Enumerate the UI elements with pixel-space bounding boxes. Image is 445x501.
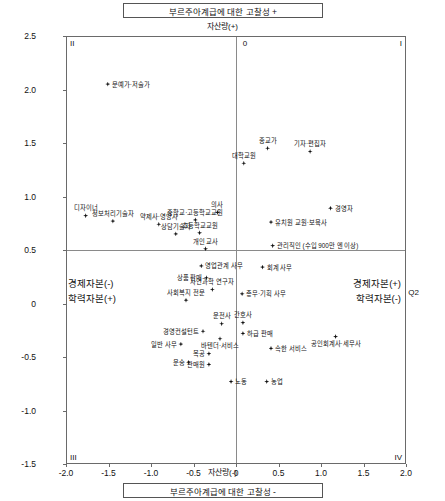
y-axis-tick-mark [63,197,66,198]
bottom-title-text: 부르주아계급에 대한 고찰성 - [170,485,276,497]
data-point-marker-icon [265,146,270,151]
y-axis-tick-label: 0 [0,299,36,309]
origin-marker-label: 0 [243,39,247,48]
y-axis-tick-label: 0.5 [0,245,36,255]
data-point-marker-icon [83,213,88,218]
y-axis-tick-label: -1.0 [0,406,36,416]
data-point-marker-icon [105,82,110,87]
y-axis-tick-mark [63,250,66,251]
top-axis-label: 자산량(+) [0,20,445,31]
plot-area: II I III IV 0 문예가·저술가디자이너정보처리기술자약제사·영양사상… [66,36,406,464]
data-point-marker-icon [229,379,234,384]
chart-root: 부르주아계급에 대한 고찰성 + 자산량(+) II I III IV 0 문예… [0,0,445,501]
quadrant-label-4: IV [394,453,402,462]
data-point-marker-icon [269,220,274,225]
data-point-marker-icon [178,342,183,347]
data-point-label: 초등학교교원 [182,223,218,229]
quadrant-label-1: I [400,39,402,48]
data-point-label: 목공 [193,351,205,357]
data-point-marker-icon [199,263,204,268]
data-point-label: 유치원 교원·보육사 [275,220,327,226]
data-point-marker-icon [333,334,338,339]
data-point-label: 총무·기획 사무 [246,291,286,297]
horizontal-axis-line [67,250,405,251]
data-point-marker-icon [110,219,115,224]
data-point-label: 운전사 [213,313,231,319]
data-point-label: 의사 [211,202,223,208]
y-axis-tick-label: 1.0 [0,192,36,202]
data-point-marker-icon [270,243,275,248]
y-axis-tick-mark [63,143,66,144]
data-point-marker-icon [173,231,178,236]
data-point-label: 대학교원 [232,153,256,159]
data-point-label: 종교가 [259,138,277,144]
data-point-label: 농업 [271,379,283,385]
data-point-label: 바텐더·서비스 [201,343,239,349]
y-axis-tick-mark [63,90,66,91]
data-point-label: 노동 [235,379,247,385]
data-point-marker-icon [264,379,269,384]
y-axis-tick-mark [63,36,66,37]
data-point-label: 중학교·고등학교교원 [167,210,223,216]
y-axis-tick-label: 2.5 [0,31,36,41]
data-point-label: 운송 [173,360,185,366]
caption-economic-negative: 경제자본(-) [68,276,114,290]
quadrant-label-3: III [70,453,77,462]
data-point-label: 정보처리기술자 [92,211,134,217]
bottom-title-box: 부르주아계급에 대한 고찰성 - [123,483,323,498]
data-point-marker-icon [241,161,246,166]
data-point-marker-icon [210,287,215,292]
y-axis-tick-label: 2.0 [0,85,36,95]
data-point-marker-icon [240,291,245,296]
bottom-axis-label: 자산량(-) [0,466,445,477]
data-point-label: 경영자 [335,206,353,212]
data-point-marker-icon [218,336,223,341]
y-axis-tick-label: 1.5 [0,138,36,148]
data-point-marker-icon [184,298,189,303]
data-point-label: 속한 서비스 [275,346,307,352]
caption-education-positive: 학력자본(+) [68,291,116,305]
data-point-label: 자연과학 연구자 [190,279,234,285]
data-point-label: 문예가·저술가 [112,82,150,88]
y-axis-tick-mark [63,411,66,412]
data-point-marker-icon [219,321,224,326]
data-point-marker-icon [328,206,333,211]
data-point-label: 사회복지 전문 [167,290,205,296]
data-point-marker-icon [260,265,265,270]
data-point-label: 경영컨설턴트 [163,329,199,335]
data-point-marker-icon [206,351,211,356]
data-point-label: 기자·편집자 [294,141,326,147]
data-point-marker-icon [206,362,211,367]
data-point-label: 개인 교사 [193,239,219,245]
data-point-marker-icon [240,320,245,325]
data-point-marker-icon [240,331,245,336]
data-point-label: 판매원 [187,362,205,368]
data-point-label: 하급 판매 [247,331,273,337]
data-point-label: 일반 사무 [151,342,177,348]
y-axis-tick-mark [63,304,66,305]
top-title-box: 부르주아계급에 대한 고찰성 + [123,3,323,18]
top-title-text: 부르주아계급에 대한 고찰성 + [169,5,277,17]
dimension2-label: Q2 [408,288,419,297]
caption-education-negative: 학력자본(-) [356,291,402,305]
data-point-label: 간호사 [234,312,252,318]
y-axis-tick-mark [63,357,66,358]
y-axis-tick-label: -0.5 [0,352,36,362]
quadrant-label-2: II [70,39,74,48]
data-point-marker-icon [269,346,274,351]
data-point-label: 관리직인 (수입 900만 엔 이상) [277,243,359,249]
data-point-marker-icon [197,230,202,235]
caption-economic-positive: 경제자본(+) [353,276,401,290]
data-point-marker-icon [201,329,206,334]
data-point-label: 공인회계사·세무사 [311,341,361,347]
data-point-label: 영업관계 사무 [205,263,243,269]
data-point-marker-icon [308,149,313,154]
data-point-label: 회계 사무 [267,265,293,271]
